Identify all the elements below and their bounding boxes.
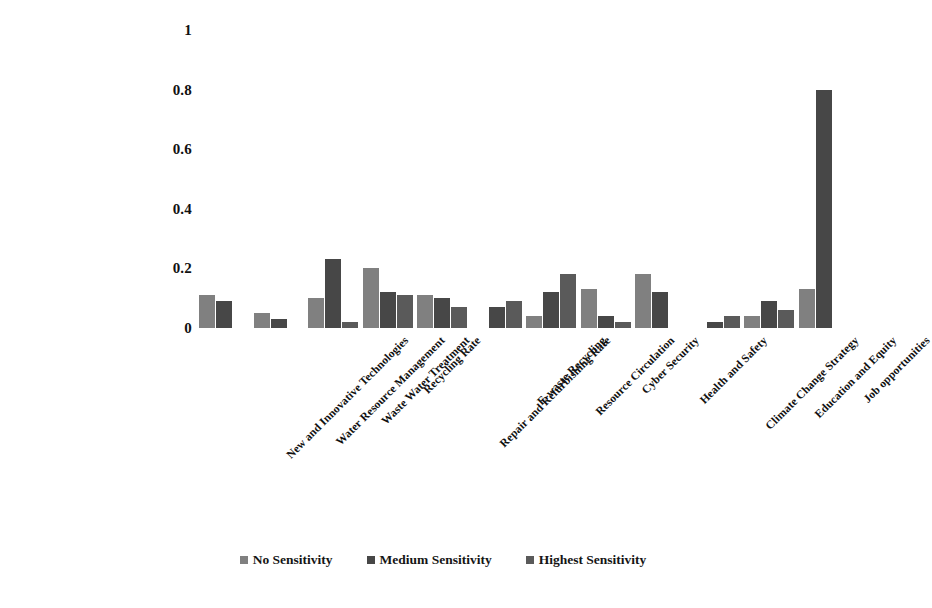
bar-group (741, 30, 796, 328)
bar (451, 307, 467, 328)
bar (397, 295, 413, 328)
bar-group (305, 30, 360, 328)
bar (489, 307, 505, 328)
y-axis-tick-2: 0.4 (150, 200, 192, 217)
y-axis-tick-1: 0.2 (150, 260, 192, 277)
bar (707, 322, 723, 328)
category-label: E-waste Recycling (535, 334, 608, 407)
bar (615, 322, 631, 328)
bar (652, 292, 668, 328)
legend-swatch-icon (526, 556, 534, 564)
legend-swatch-icon (240, 556, 248, 564)
legend-item-0[interactable]: No Sensitivity (240, 552, 333, 568)
chart-legend: No SensitivityMedium SensitivityHighest … (0, 552, 886, 568)
category-label: Health and Safety (698, 334, 770, 406)
bar (724, 316, 740, 328)
category-axis-labels: New and Innovative TechnologiesWater Res… (196, 330, 850, 530)
bar (363, 268, 379, 328)
y-axis-tick-0: 0 (150, 320, 192, 337)
y-axis-tick-4: 0.8 (150, 81, 192, 98)
bar-group (578, 30, 633, 328)
bar (761, 301, 777, 328)
bar (254, 313, 270, 328)
bar (526, 316, 542, 328)
bar-group (523, 30, 578, 328)
bar (778, 310, 794, 328)
bar (816, 90, 832, 328)
y-axis-tick-5: 1 (150, 22, 192, 39)
bar (216, 301, 232, 328)
bar (380, 292, 396, 328)
bar (581, 289, 597, 328)
bar-group (196, 30, 251, 328)
bar-group (796, 30, 851, 328)
y-axis: 00.20.40.60.81 (150, 0, 192, 360)
plot-area (196, 30, 850, 328)
bar (342, 322, 358, 328)
bar (543, 292, 559, 328)
bar-group (414, 30, 469, 328)
bar-groups (196, 30, 850, 328)
bar (308, 298, 324, 328)
bar-group (687, 30, 742, 328)
bar (744, 316, 760, 328)
bar (598, 316, 614, 328)
bar (799, 289, 815, 328)
legend-label: No Sensitivity (253, 552, 333, 568)
y-axis-tick-3: 0.6 (150, 141, 192, 158)
bar (325, 259, 341, 328)
bar (417, 295, 433, 328)
legend-item-2[interactable]: Highest Sensitivity (526, 552, 647, 568)
legend-label: Highest Sensitivity (539, 552, 647, 568)
legend-item-1[interactable]: Medium Sensitivity (367, 552, 492, 568)
bar-group (632, 30, 687, 328)
bar-group (251, 30, 306, 328)
bar (635, 274, 651, 328)
bar (271, 319, 287, 328)
legend-swatch-icon (367, 556, 375, 564)
legend-label: Medium Sensitivity (380, 552, 492, 568)
bar (199, 295, 215, 328)
bar-group (469, 30, 524, 328)
bar (560, 274, 576, 328)
bar (434, 298, 450, 328)
bar (506, 301, 522, 328)
bar-group (360, 30, 415, 328)
